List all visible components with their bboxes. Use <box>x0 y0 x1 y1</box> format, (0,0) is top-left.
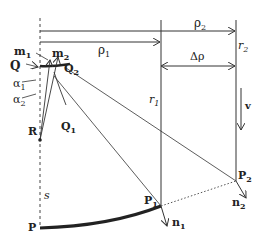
label-Q: Q <box>10 60 20 72</box>
curve-P-P1 <box>40 206 161 228</box>
line-Q2-P2 <box>66 68 236 181</box>
Q-pointer <box>26 64 38 67</box>
label-rho1: ρ1 <box>98 44 110 59</box>
label-m2: m2 <box>52 48 69 61</box>
label-alpha1: α1 <box>13 78 26 92</box>
label-s: s <box>44 190 50 201</box>
n1-arrow <box>161 206 167 226</box>
label-P2: P2 <box>238 170 252 183</box>
label-delta-rho: Δρ <box>190 51 204 62</box>
label-Q1: Q1 <box>61 121 76 134</box>
label-alpha2: α2 <box>13 94 26 108</box>
dotted-P1-P2 <box>161 181 236 206</box>
label-n1: n1 <box>172 217 186 230</box>
label-rho2: ρ2 <box>194 17 206 32</box>
m1-pointer <box>36 53 48 60</box>
label-P1: P1 <box>144 195 158 208</box>
label-r2: r2 <box>238 40 248 54</box>
point-R <box>38 138 42 142</box>
label-r1: r1 <box>149 94 159 108</box>
diagram-lines <box>0 0 261 243</box>
label-Q2: Q2 <box>64 63 79 76</box>
label-R: R <box>28 126 37 137</box>
geometry-diagram: m1 m2 Q Q2 Q1 α1 α2 R s P P1 P2 n1 n2 ρ1… <box>0 0 261 243</box>
label-m1: m1 <box>14 46 31 59</box>
label-v: v <box>245 101 251 111</box>
label-n2: n2 <box>232 197 246 210</box>
label-P: P <box>28 222 36 233</box>
